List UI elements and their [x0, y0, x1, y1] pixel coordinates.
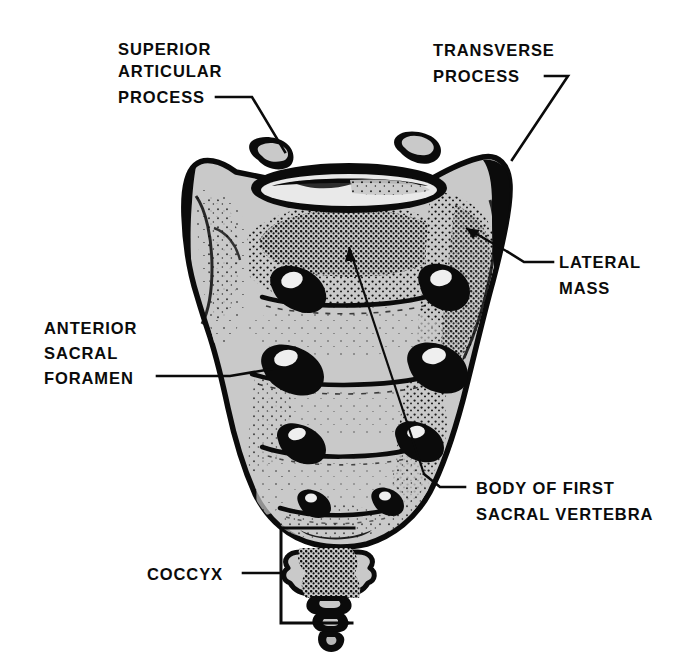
- label-superior-articular-process-line3: PROCESS: [118, 88, 205, 106]
- coccyx-segment-2-inner: [319, 601, 340, 608]
- label-body-of-first-sacral-vertebra-line1: BODY OF FIRST: [476, 479, 615, 497]
- anatomical-figure: SUPERIOR ARTICULAR PROCESS TRANSVERSE PR…: [0, 0, 699, 660]
- sacral-canal: [251, 163, 447, 213]
- label-coccyx-line1: COCCYX: [147, 565, 223, 583]
- label-superior-articular-process-line2: ARTICULAR: [118, 62, 222, 80]
- label-coccyx: COCCYX: [147, 565, 223, 583]
- label-lateral-mass-line1: LATERAL: [559, 253, 641, 271]
- sacrum-diagram-svg: SUPERIOR ARTICULAR PROCESS TRANSVERSE PR…: [0, 0, 699, 660]
- label-anterior-sacral-foramen-line1: ANTERIOR: [44, 319, 137, 337]
- label-superior-articular-process-line1: SUPERIOR: [118, 40, 211, 58]
- label-lateral-mass-line2: MASS: [559, 279, 610, 297]
- label-transverse-process-line2: PROCESS: [433, 67, 520, 85]
- label-anterior-sacral-foramen-line3: FORAMEN: [44, 369, 134, 387]
- label-body-of-first-sacral-vertebra-line2: SACRAL VERTEBRA: [476, 505, 653, 523]
- label-transverse-process-line1: TRANSVERSE: [433, 41, 555, 59]
- label-anterior-sacral-foramen-line2: SACRAL: [44, 344, 118, 362]
